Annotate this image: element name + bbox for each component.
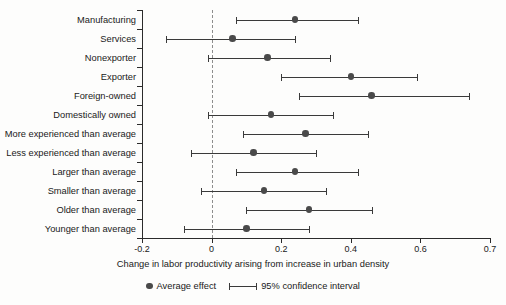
legend-item-average-effect: Average effect: [146, 281, 216, 291]
category-label: Manufacturing: [0, 15, 136, 25]
confidence-interval-lower-cap: [281, 74, 282, 81]
category-label: More experienced than average: [0, 129, 136, 139]
x-axis-tick-label: 0.7: [484, 244, 497, 254]
x-axis-tick-label: 0.4: [345, 244, 358, 254]
plot-area: [142, 10, 490, 238]
x-axis-tick: [351, 238, 352, 243]
confidence-interval-upper-cap: [417, 74, 418, 81]
confidence-interval-lower-cap: [246, 207, 247, 214]
confidence-interval-upper-cap: [330, 55, 331, 62]
confidence-interval-lower-cap: [201, 188, 202, 195]
confidence-interval-lower-cap: [299, 93, 300, 100]
confidence-interval-line: [299, 96, 470, 97]
category-label: Younger than average: [0, 224, 136, 234]
category-label: Nonexporter: [0, 53, 136, 63]
x-axis-title: Change in labor productivity arising fro…: [0, 259, 506, 269]
x-axis-tick-label: -0.2: [134, 244, 150, 254]
x-axis-tick: [490, 238, 491, 243]
average-effect-point: [302, 130, 309, 137]
confidence-interval-upper-cap: [469, 93, 470, 100]
category-label: Less experienced than average: [0, 148, 136, 158]
forest-plot-figure: ManufacturingServicesNonexporterExporter…: [0, 0, 506, 305]
confidence-interval-upper-cap: [358, 169, 359, 176]
category-label: Exporter: [0, 72, 136, 82]
legend-item-confidence-interval: 95% confidence interval: [229, 281, 360, 291]
confidence-interval-lower-cap: [243, 131, 244, 138]
average-effect-point: [368, 92, 375, 99]
confidence-interval-upper-cap: [333, 112, 334, 119]
x-axis-tick: [281, 238, 282, 243]
category-label: Domestically owned: [0, 110, 136, 120]
category-label: Services: [0, 34, 136, 44]
confidence-interval-marker-icon: [229, 283, 257, 290]
x-axis-tick-label: 0.2: [275, 244, 288, 254]
average-effect-point: [268, 111, 275, 118]
average-effect-point: [250, 149, 257, 156]
confidence-interval-upper-cap: [295, 36, 296, 43]
confidence-interval-upper-cap: [368, 131, 369, 138]
average-effect-point: [264, 54, 271, 61]
confidence-interval-lower-cap: [184, 226, 185, 233]
average-effect-point: [292, 168, 299, 175]
category-label-column: ManufacturingServicesNonexporterExporter…: [0, 10, 136, 238]
confidence-interval-lower-cap: [208, 112, 209, 119]
category-label: Older than average: [0, 205, 136, 215]
average-effect-point: [348, 73, 355, 80]
confidence-interval-lower-cap: [191, 150, 192, 157]
average-effect-marker-icon: [146, 283, 153, 290]
x-axis-tick: [212, 238, 213, 243]
confidence-interval-upper-cap: [316, 150, 317, 157]
confidence-interval-upper-cap: [372, 207, 373, 214]
chart-legend: Average effect 95% confidence interval: [0, 281, 506, 291]
confidence-interval-lower-cap: [236, 169, 237, 176]
confidence-interval-upper-cap: [358, 17, 359, 24]
confidence-interval-upper-cap: [326, 188, 327, 195]
x-axis-tick-label: 0: [209, 244, 214, 254]
category-label: Smaller than average: [0, 186, 136, 196]
x-axis-line: [142, 238, 490, 239]
legend-label-average-effect: Average effect: [157, 281, 217, 291]
average-effect-point: [261, 187, 268, 194]
category-label: Larger than average: [0, 167, 136, 177]
x-axis-tick: [142, 238, 143, 243]
confidence-interval-lower-cap: [208, 55, 209, 62]
average-effect-point: [306, 206, 313, 213]
confidence-interval-lower-cap: [236, 17, 237, 24]
confidence-interval-lower-cap: [166, 36, 167, 43]
legend-label-confidence-interval: 95% confidence interval: [261, 281, 360, 291]
confidence-interval-upper-cap: [309, 226, 310, 233]
average-effect-point: [229, 35, 236, 42]
x-axis-tick: [420, 238, 421, 243]
average-effect-point: [292, 16, 299, 23]
category-label: Foreign-owned: [0, 91, 136, 101]
x-axis-tick-label: 0.6: [414, 244, 427, 254]
average-effect-point: [243, 225, 250, 232]
